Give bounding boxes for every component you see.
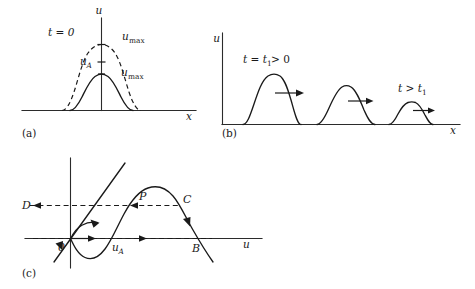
panel-b-time-right-base: t > t	[398, 82, 423, 94]
panel-c-label-origin: 0	[58, 241, 65, 254]
panel-c-arrowhead-cubic-down	[183, 217, 191, 227]
panel-c-label-uA-sub: A	[118, 247, 124, 256]
panel-a-x-axis-label: x	[186, 110, 192, 122]
three-panel-figure: u x t = 0 u max u A u max (a)	[0, 0, 475, 289]
panel-c-arrowhead-D-left	[33, 202, 41, 209]
panel-c-label-D: D	[21, 199, 31, 212]
panel-b-pulse-1	[243, 74, 301, 124]
panel-b-time-right-sub: 1	[422, 88, 427, 97]
panel-c-caption: (c)	[22, 267, 36, 279]
panel-c-label-P: P	[138, 190, 147, 203]
panel-b-pulse-2	[317, 86, 375, 125]
panel-c-arrowhead-axis-right	[139, 235, 147, 242]
panel-a-umax-dashed-base: u	[122, 30, 129, 42]
panel-c-arc-arrow	[71, 220, 100, 239]
panel-a-caption: (a)	[22, 127, 36, 139]
panel-c-label-B: B	[191, 242, 200, 255]
panel-b-time-left-base: t = t	[243, 53, 268, 65]
panel-b-time-label-right: t > t 1	[398, 82, 427, 97]
panel-a-umax-dashed-label: u max	[122, 30, 145, 45]
panel-c-arrow-origin-axis	[71, 235, 97, 242]
panel-a-umax-dashed-sub: max	[129, 36, 145, 45]
panel-a-umax-solid-sub: max	[128, 72, 144, 81]
panel-a-time-label: t = 0	[48, 26, 75, 38]
panel-b-time-left-tail: > 0	[271, 53, 290, 65]
panel-a-uA-sub: A	[86, 61, 92, 70]
panel-a-u-axis-label: u	[96, 4, 103, 16]
panel-a: u x t = 0 u max u A u max (a)	[22, 4, 196, 139]
panel-b: u x t =	[213, 32, 460, 139]
panel-c-label-uA: u A	[112, 241, 124, 256]
panel-c: u	[21, 158, 262, 279]
panel-b-time-label-left: t = t 1 > 0	[243, 53, 290, 68]
panel-b-x-axis-label: x	[450, 124, 456, 136]
panel-a-umax-solid-base: u	[121, 66, 128, 78]
panel-b-u-axis-label: u	[213, 32, 220, 44]
panel-b-caption: (b)	[222, 127, 237, 139]
figure-root: u x t = 0 u max u A u max (a)	[0, 0, 475, 289]
panel-c-u-axis-label: u	[243, 238, 250, 250]
panel-c-label-C: C	[183, 193, 192, 206]
panel-b-pulse-3	[389, 102, 433, 125]
